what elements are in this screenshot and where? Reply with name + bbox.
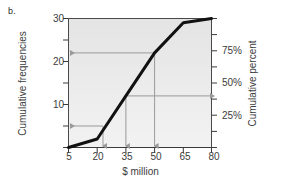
y-right-ticks [212, 19, 218, 148]
x-ticks [69, 148, 212, 154]
plot-background [68, 18, 212, 147]
figure-panel-b: b. Cumulative frequencies Cumulative per… [0, 0, 285, 188]
chart-svg [0, 0, 285, 188]
y-left-ticks [63, 19, 69, 148]
